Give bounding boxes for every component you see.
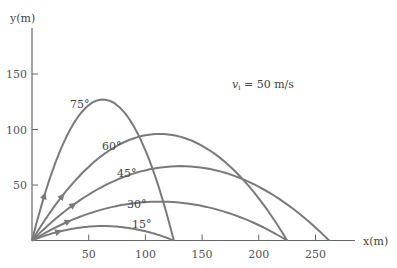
y-tick-label: 50: [13, 179, 27, 192]
curve-label-15: 15°: [132, 218, 152, 231]
velocity-annotation: vi = 50 m/s: [232, 78, 294, 92]
trajectory-curves: [32, 100, 329, 241]
projectile-trajectory-chart: 5010015020025050100150 75°60°45°30°15° y…: [0, 0, 397, 268]
curve-labels: 75°60°45°30°15°: [70, 98, 152, 231]
y-tick-label: 100: [6, 124, 27, 137]
y-axis-label: y(m): [9, 12, 35, 25]
velocity-value: = 50 m/s: [240, 78, 294, 91]
x-axis-label: x(m): [363, 235, 388, 248]
curve-label-60: 60°: [102, 140, 122, 153]
x-tick-label: 100: [135, 248, 156, 261]
x-tick-label: 200: [248, 248, 269, 261]
x-tick-label: 150: [192, 248, 213, 261]
x-tick-label: 250: [305, 248, 326, 261]
y-tick-label: 150: [6, 68, 27, 81]
trajectory-75: [32, 100, 174, 241]
curve-label-45: 45°: [117, 167, 137, 180]
curve-label-30: 30°: [127, 198, 147, 211]
curve-label-75: 75°: [70, 98, 90, 111]
x-tick-label: 50: [82, 248, 96, 261]
